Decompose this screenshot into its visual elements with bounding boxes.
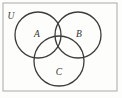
venn-diagram-canvas: U A B C [0,0,122,98]
set-label-b: B [76,29,82,39]
set-label-a: A [33,29,40,39]
universal-set-frame [3,3,117,91]
set-label-c: C [56,67,63,77]
universal-set-label: U [8,11,16,21]
venn-diagram-figure: U A B C [0,0,122,98]
